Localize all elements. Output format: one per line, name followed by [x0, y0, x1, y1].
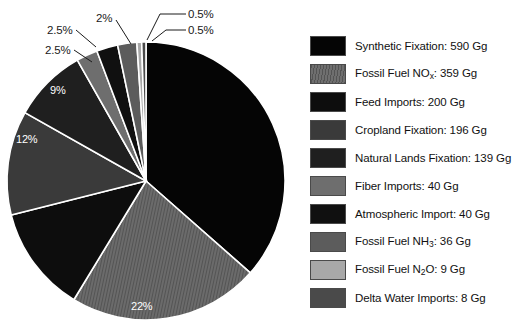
legend-swatch-natural-lands-fixation [310, 148, 346, 168]
pie-callout-label-4: 2.5% [47, 24, 72, 36]
legend-label-6: Fiber Imports: 40 Gg [355, 180, 458, 192]
pie-slices [7, 42, 285, 320]
legend-label-1: Synthetic Fixation: 590 Gg [355, 40, 487, 52]
legend-row-10[interactable]: Delta Water Imports: 8 Gg [310, 284, 515, 312]
legend-row-7[interactable]: Atmospheric Import: 40 Gg [310, 200, 515, 228]
legend-label-8: Fossil Fuel NH3: 36 Gg [355, 235, 471, 249]
legend-label-4: Cropland Fixation: 196 Gg [355, 124, 487, 136]
legend-label-7: Atmospheric Import: 40 Gg [355, 208, 490, 220]
legend-swatch-fossil-fuel-nh3 [310, 232, 346, 252]
legend-label-3: Feed Imports: 200 Gg [355, 96, 465, 108]
pie-inside-label-1: 9% [50, 84, 66, 96]
legend-swatch-feed-imports [310, 92, 346, 112]
legend-swatch-fiber-imports [310, 176, 346, 196]
pie-inside-label-2: 12% [16, 133, 37, 145]
legend-row-1[interactable]: Synthetic Fixation: 590 Gg [310, 32, 515, 60]
legend-row-2[interactable]: Fossil Fuel NOx: 359 Gg [310, 60, 515, 88]
pie-chart-figure: 0.5%0.5%2%2.5%2.5% 9%12%22% Synthetic Fi… [0, 0, 517, 329]
legend-row-6[interactable]: Fiber Imports: 40 Gg [310, 172, 515, 200]
pie-callout-label-3: 2% [96, 12, 112, 24]
legend-row-8[interactable]: Fossil Fuel NH3: 36 Gg [310, 228, 515, 256]
legend-swatch-fossil-fuel-n2o [310, 260, 346, 280]
legend-row-4[interactable]: Cropland Fixation: 196 Gg [310, 116, 515, 144]
pie-callout-label-1: 0.5% [188, 8, 213, 20]
legend-swatch-fossil-fuel-nox [310, 64, 346, 84]
legend-swatch-atmospheric-import [310, 204, 346, 224]
legend-label-2: Fossil Fuel NOx: 359 Gg [355, 67, 477, 81]
chart-legend: Synthetic Fixation: 590 GgFossil Fuel NO… [310, 32, 515, 312]
pie-inside-label-3: 22% [131, 300, 152, 312]
legend-swatch-synthetic-fixation [310, 36, 346, 56]
pie-plot-area: 0.5%0.5%2%2.5%2.5% 9%12%22% [0, 0, 300, 329]
legend-row-3[interactable]: Feed Imports: 200 Gg [310, 88, 515, 116]
legend-row-9[interactable]: Fossil Fuel N2O: 9 Gg [310, 256, 515, 284]
legend-label-5: Natural Lands Fixation: 139 Gg [355, 152, 511, 164]
legend-label-9: Fossil Fuel N2O: 9 Gg [355, 263, 465, 277]
legend-swatch-cropland-fixation [310, 120, 346, 140]
legend-label-10: Delta Water Imports: 8 Gg [355, 292, 486, 304]
pie-callout-label-2: 0.5% [188, 24, 213, 36]
pie-callout-label-5: 2.5% [45, 44, 70, 56]
legend-row-5[interactable]: Natural Lands Fixation: 139 Gg [310, 144, 515, 172]
legend-swatch-delta-water-imports [310, 288, 346, 308]
